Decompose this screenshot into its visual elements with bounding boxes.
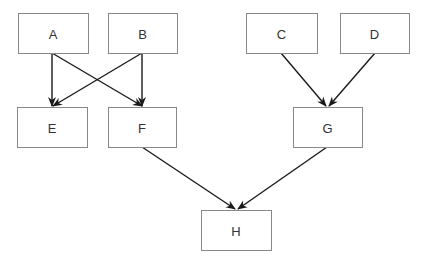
edge-c-to-g (281, 53, 326, 106)
node-h: H (202, 211, 272, 251)
node-label: G (322, 121, 332, 136)
node-label: A (49, 27, 58, 42)
node-b: B (109, 14, 178, 54)
dependency-diagram: ABCDEFGH (0, 0, 422, 259)
edge-d-to-g (329, 53, 375, 106)
node-a: A (19, 14, 89, 54)
edge-g-to-h (238, 147, 327, 209)
node-label: D (370, 27, 379, 42)
node-label: C (277, 27, 286, 42)
edge-f-to-h (142, 147, 235, 209)
node-g: G (294, 108, 363, 148)
node-d: D (341, 14, 410, 54)
node-label: B (138, 27, 147, 42)
node-f: F (109, 108, 177, 148)
node-label: E (48, 121, 57, 136)
nodes: ABCDEFGH (18, 14, 410, 251)
node-label: H (231, 224, 240, 239)
node-label: F (138, 121, 146, 136)
node-c: C (247, 14, 318, 54)
node-e: E (18, 108, 88, 148)
